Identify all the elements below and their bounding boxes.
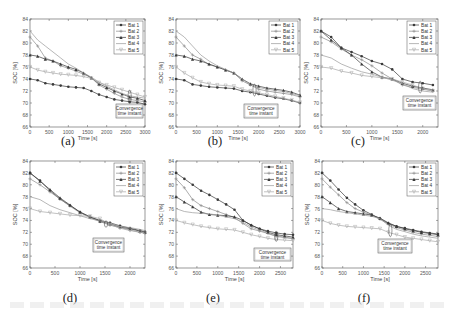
legend-item: Bat 1 (421, 165, 433, 170)
y-tick-label: 70 (168, 100, 174, 106)
x-tick-label: 2500 (274, 129, 285, 135)
legend-item: Bat 4 (128, 41, 140, 46)
y-tick-label: 68 (168, 253, 174, 259)
x-tick-label: 1500 (99, 270, 110, 276)
x-tick-label: 500 (342, 129, 351, 135)
y-tick-label: 82 (314, 170, 320, 176)
x-axis-label: Time [s] (228, 135, 248, 141)
y-tick-label: 80 (313, 40, 319, 46)
legend-item: Bat 2 (276, 171, 288, 176)
legend-item: Bat 2 (421, 171, 433, 176)
y-tick-label: 76 (22, 64, 28, 70)
chart-panel-f: 6668707274767880828405001000150020002500… (304, 158, 440, 305)
y-tick-label: 72 (168, 229, 174, 235)
y-tick-label: 70 (314, 241, 320, 247)
y-tick-label: 76 (22, 206, 28, 212)
caption-fragment (10, 302, 450, 308)
legend-item: Bat 5 (421, 48, 433, 53)
x-tick-label: 0 (29, 129, 32, 135)
legend-item: Bat 1 (128, 23, 140, 28)
y-tick-label: 84 (314, 158, 320, 164)
y-tick-label: 80 (168, 182, 174, 188)
legend-item: Bat 4 (276, 183, 288, 188)
legend: Bat 1Bat 2Bat 3Bat 4Bat 5 (407, 21, 436, 54)
legend-item: Bat 3 (421, 35, 433, 40)
x-tick-label: 500 (339, 270, 348, 276)
legend: Bat 1Bat 2Bat 3Bat 4Bat 5 (262, 163, 291, 196)
x-axis-label: Time [s] (370, 276, 390, 282)
annotation-text: time instant (261, 255, 285, 260)
y-tick-label: 66 (313, 124, 319, 130)
x-tick-label: 1000 (212, 270, 223, 276)
y-tick-label: 78 (314, 194, 320, 200)
legend-item: Bat 4 (421, 41, 433, 46)
y-tick-label: 74 (313, 76, 319, 82)
y-tick-label: 82 (22, 170, 28, 176)
legend: Bat 1Bat 2Bat 3Bat 4Bat 5 (407, 163, 436, 196)
legend-item: Bat 5 (283, 48, 295, 53)
panel-label: (c) (351, 134, 365, 148)
y-tick-label: 80 (314, 182, 320, 188)
legend-item: Bat 2 (283, 29, 295, 34)
legend-item: Bat 1 (128, 165, 140, 170)
legend-item: Bat 3 (421, 177, 433, 182)
y-tick-label: 74 (314, 217, 320, 223)
y-tick-label: 82 (22, 28, 28, 34)
x-tick-label: 1000 (358, 270, 369, 276)
x-tick-label: 2000 (101, 129, 112, 135)
x-axis-label: Time [s] (370, 135, 390, 141)
y-tick-label: 74 (22, 76, 28, 82)
annotation-text: time instant (249, 111, 273, 116)
chart-panel-e: 6668707274767880828405001000150020002500… (158, 158, 295, 305)
y-tick-label: 68 (168, 112, 174, 118)
legend-item: Bat 2 (128, 171, 140, 176)
panel-label: (b) (208, 134, 223, 148)
x-tick-label: 0 (29, 270, 32, 276)
y-tick-label: 80 (168, 40, 174, 46)
x-tick-label: 1500 (392, 129, 403, 135)
legend-item: Bat 5 (128, 48, 140, 53)
y-tick-label: 84 (168, 158, 174, 164)
chart-panel-b: 6668707274767880828405001000150020002500… (158, 16, 306, 148)
y-tick-label: 66 (22, 265, 28, 271)
legend: Bat 1Bat 2Bat 3Bat 4Bat 5 (269, 21, 298, 54)
x-tick-label: 0 (175, 270, 178, 276)
y-tick-label: 72 (313, 88, 319, 94)
x-tick-label: 3000 (139, 129, 150, 135)
y-tick-label: 76 (313, 64, 319, 70)
x-tick-label: 2000 (124, 270, 135, 276)
y-tick-label: 68 (22, 253, 28, 259)
y-tick-label: 68 (313, 112, 319, 118)
x-tick-label: 500 (193, 270, 202, 276)
y-tick-label: 78 (313, 52, 319, 58)
legend-item: Bat 4 (128, 183, 140, 188)
legend-item: Bat 1 (283, 23, 295, 28)
annotation-text: time instant (118, 111, 142, 116)
annotation-text: time instant (408, 103, 432, 108)
y-tick-label: 66 (22, 124, 28, 130)
legend: Bat 1Bat 2Bat 3Bat 4Bat 5 (114, 21, 143, 54)
legend-item: Bat 3 (283, 35, 295, 40)
y-tick-label: 78 (168, 194, 174, 200)
x-tick-label: 2000 (253, 129, 264, 135)
x-tick-label: 2000 (417, 129, 428, 135)
y-axis-label: SOC [%] (12, 203, 18, 225)
y-tick-label: 68 (22, 112, 28, 118)
legend-item: Bat 3 (128, 177, 140, 182)
y-tick-label: 78 (22, 52, 28, 58)
x-axis-label: Time [s] (78, 135, 98, 141)
annotation-text: time instant (383, 246, 407, 251)
y-tick-label: 84 (313, 16, 319, 22)
chart-panel-d: 666870727476788082840500100015002000Time… (12, 158, 147, 305)
y-tick-label: 80 (22, 40, 28, 46)
legend-item: Bat 5 (128, 190, 140, 195)
figure: 6668707274767880828405001000150020002500… (0, 0, 453, 310)
y-tick-label: 76 (168, 64, 174, 70)
x-tick-label: 2500 (420, 270, 431, 276)
legend-item: Bat 5 (276, 190, 288, 195)
x-axis-label: Time [s] (225, 276, 245, 282)
y-axis-label: SOC [%] (12, 62, 18, 84)
y-tick-label: 72 (22, 229, 28, 235)
y-tick-label: 76 (168, 206, 174, 212)
y-tick-label: 78 (22, 194, 28, 200)
